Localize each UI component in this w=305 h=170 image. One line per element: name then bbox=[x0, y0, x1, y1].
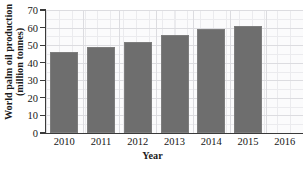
y-axis-tick-label: 70 bbox=[14, 5, 38, 16]
y-axis-tick bbox=[40, 97, 46, 98]
bar-2010 bbox=[50, 52, 78, 133]
y-axis-tick bbox=[40, 115, 46, 116]
y-axis-tick-label: 10 bbox=[14, 110, 38, 121]
y-axis-tick-label: 60 bbox=[14, 22, 38, 33]
y-axis-tick bbox=[40, 9, 46, 10]
y-axis-title-line-1: World palm oil production bbox=[3, 4, 14, 120]
cropped-caption-fragment: · · · · · · · · · · · · · ·· · · bbox=[104, 0, 302, 4]
bar-2011 bbox=[87, 47, 115, 133]
plot-area bbox=[46, 10, 303, 133]
bar-2014 bbox=[197, 29, 225, 133]
y-axis-tick bbox=[40, 27, 46, 28]
y-axis-tick bbox=[40, 62, 46, 63]
y-axis-tick bbox=[40, 45, 46, 46]
bar-2013 bbox=[161, 35, 189, 133]
y-axis-tick-label: 50 bbox=[14, 40, 38, 51]
y-axis-tick-label: 40 bbox=[14, 57, 38, 68]
bar-chart-figure: · · · · · · · · · · · · · ·· · · World p… bbox=[0, 0, 305, 170]
y-axis-tick bbox=[40, 80, 46, 81]
y-axis-tick bbox=[40, 132, 46, 133]
x-axis-line bbox=[45, 133, 303, 134]
y-axis-tick-label: 30 bbox=[14, 75, 38, 86]
bar-2015 bbox=[234, 26, 262, 133]
x-axis-tick-label: 2016 bbox=[263, 136, 305, 147]
bar-2012 bbox=[124, 42, 152, 133]
y-axis-tick-label: 20 bbox=[14, 92, 38, 103]
x-axis-title: Year bbox=[0, 150, 305, 161]
y-axis-tick-label: 0 bbox=[14, 128, 38, 139]
